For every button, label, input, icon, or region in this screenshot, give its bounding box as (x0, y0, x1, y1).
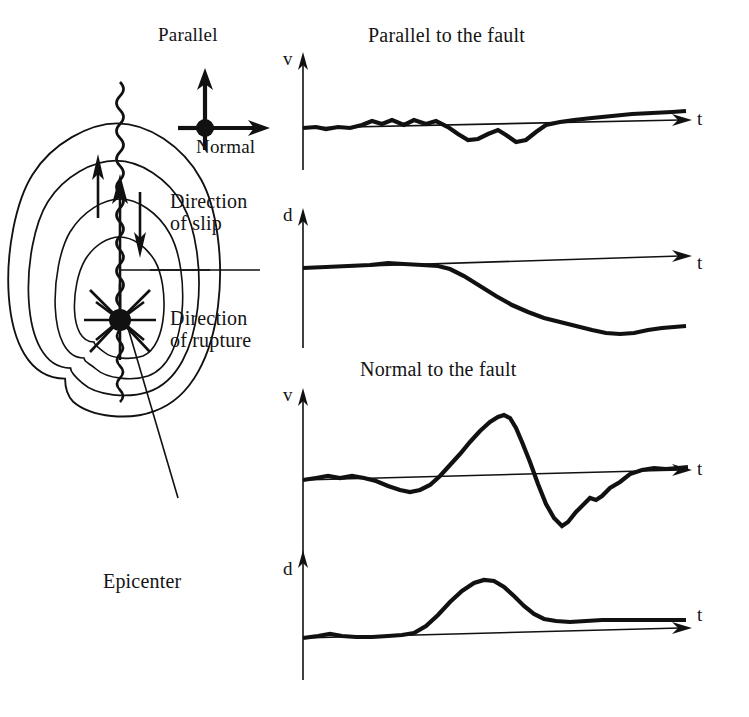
epicenter-label: Epicenter (103, 570, 181, 592)
panel-parallel-velocity (292, 50, 712, 190)
axes-key-horizontal-label: Normal (196, 136, 255, 157)
panel-2-trace (303, 415, 688, 526)
rupture-leader-extension (150, 260, 210, 280)
panel-normal-displacement (292, 550, 712, 700)
panel-1-trace (303, 263, 686, 334)
direction-of-slip-label: Direction of slip (170, 190, 247, 235)
panel-parallel-displacement (292, 206, 712, 366)
epicenter-marker (84, 284, 156, 360)
panel-title-normal: Normal to the fault (360, 358, 517, 380)
panel-title-parallel: Parallel to the fault (368, 24, 525, 46)
figure-canvas: Parallel Normal Direction of slip Direct… (0, 0, 749, 717)
direction-of-rupture-label: Direction of rupture (170, 307, 251, 352)
axes-key-origin-dot (196, 119, 214, 137)
panel-0-trace (303, 111, 686, 142)
panel-normal-velocity (292, 386, 712, 566)
axes-key-vertical-label: Parallel (158, 24, 218, 45)
